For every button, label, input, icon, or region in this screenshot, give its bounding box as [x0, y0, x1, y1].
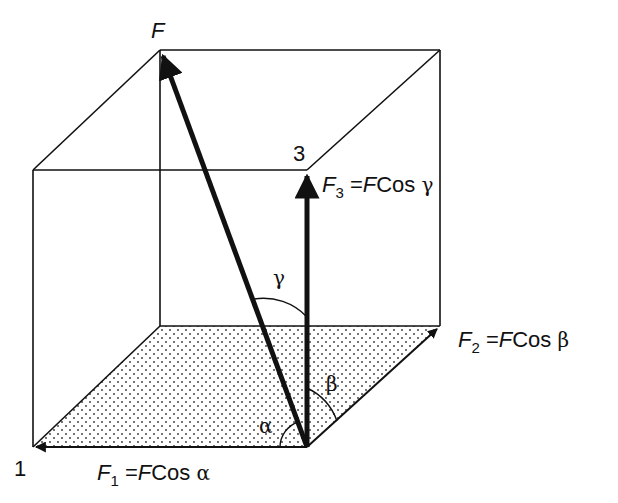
cube-diagram: [0, 0, 618, 503]
angle-alpha-label: α: [259, 416, 273, 436]
f1-rhs-symbol: F: [138, 460, 151, 485]
equation-f3: F3 =FCos γ: [322, 174, 433, 200]
f2-subscript: 2: [471, 339, 479, 356]
f3-subscript: 3: [335, 184, 343, 201]
f2-rhs-symbol: F: [499, 327, 512, 352]
f3-rhs-symbol: F: [363, 172, 376, 197]
f3-cos: Cos: [376, 172, 415, 197]
f1-subscript: 1: [110, 472, 118, 489]
base-plane: [33, 326, 440, 447]
equals-sign: =: [125, 460, 138, 485]
axis-3-label: 3: [293, 143, 305, 165]
equation-f1: F1 =FCos α: [97, 462, 210, 488]
angle-gamma-arc: [254, 298, 307, 317]
angle-gamma-label: γ: [273, 268, 285, 288]
equals-sign: =: [350, 172, 363, 197]
force-label: F: [151, 20, 164, 42]
equals-sign: =: [486, 327, 499, 352]
f2-angle: β: [557, 328, 569, 352]
f3-angle: γ: [421, 173, 433, 197]
equation-f2: F2 =FCos β: [458, 329, 569, 355]
axis-1-label: 1: [14, 458, 26, 480]
angle-beta-label: β: [326, 374, 338, 394]
f3-symbol: F: [322, 172, 335, 197]
f2-cos: Cos: [512, 327, 551, 352]
f1-symbol: F: [97, 460, 110, 485]
f1-angle: α: [196, 461, 210, 485]
f1-cos: Cos: [151, 460, 190, 485]
f2-symbol: F: [458, 327, 471, 352]
